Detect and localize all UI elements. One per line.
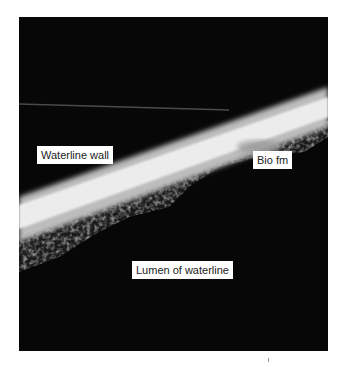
waterline-wall-label: Waterline wall <box>37 146 113 164</box>
micrograph-image <box>19 17 328 351</box>
micrograph-drawing <box>19 17 328 351</box>
scale-tick <box>268 358 269 362</box>
lumen-label: Lumen of waterline <box>132 261 233 279</box>
biofilm-label: Bio fm <box>253 151 292 169</box>
